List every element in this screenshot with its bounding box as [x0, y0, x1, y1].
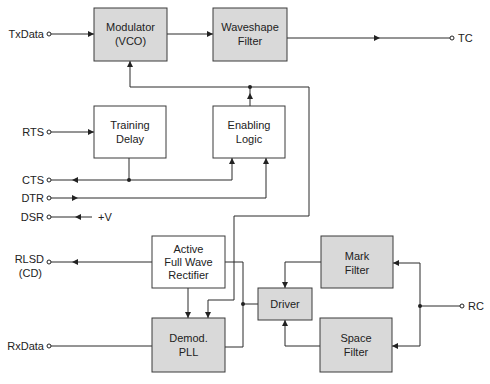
- modulator-label: Modulator: [106, 21, 155, 33]
- block-rectifier: Active Full Wave Rectifier: [152, 236, 225, 288]
- signal-plus-v: +V: [98, 211, 112, 223]
- signal-rts: RTS: [22, 126, 44, 138]
- signal-labels: TxData TC RTS CTS DTR DSR +V RLSD (CD) R…: [7, 28, 484, 352]
- rectifier-label-1: Active: [174, 243, 204, 255]
- block-training-delay: Training Delay: [94, 106, 166, 158]
- signal-tc: TC: [458, 32, 473, 44]
- demod-label: Demod.: [169, 332, 208, 344]
- signal-dtr: DTR: [21, 192, 44, 204]
- block-driver: Driver: [258, 288, 312, 320]
- mark-sublabel: Filter: [345, 264, 370, 276]
- rectifier-label-2: Full Wave: [164, 256, 213, 268]
- block-demod-pll: Demod. PLL: [152, 318, 225, 372]
- waveshape-label: Waveshape: [221, 21, 279, 33]
- training-label: Training: [110, 119, 149, 131]
- block-enabling-logic: Enabling Logic: [213, 106, 285, 158]
- space-label: Space: [340, 332, 371, 344]
- signal-cd: (CD): [19, 267, 42, 279]
- block-waveshape-filter: Waveshape Filter: [213, 8, 287, 61]
- signal-rlsd: RLSD: [15, 253, 44, 265]
- block-space-filter: Space Filter: [320, 318, 392, 372]
- rectifier-label-3: Rectifier: [168, 269, 209, 281]
- mark-label: Mark: [345, 250, 370, 262]
- wires: [51, 34, 460, 347]
- training-sublabel: Delay: [116, 133, 145, 145]
- terminals: [47, 32, 464, 348]
- signal-rc: RC: [468, 300, 484, 312]
- space-sublabel: Filter: [344, 346, 369, 358]
- modulator-sublabel: (VCO): [115, 35, 146, 47]
- block-mark-filter: Mark Filter: [321, 236, 393, 288]
- modem-block-diagram: Modulator (VCO) Waveshape Filter Trainin…: [0, 0, 490, 384]
- driver-label: Driver: [270, 298, 300, 310]
- signal-dsr: DSR: [21, 211, 44, 223]
- signal-rxdata: RxData: [7, 340, 45, 352]
- enabling-label: Enabling: [228, 119, 271, 131]
- signal-txdata: TxData: [9, 28, 45, 40]
- block-modulator: Modulator (VCO): [94, 8, 167, 61]
- waveshape-sublabel: Filter: [238, 35, 263, 47]
- demod-sublabel: PLL: [179, 346, 199, 358]
- signal-cts: CTS: [22, 174, 44, 186]
- arrowheads: [72, 31, 399, 349]
- enabling-sublabel: Logic: [236, 133, 263, 145]
